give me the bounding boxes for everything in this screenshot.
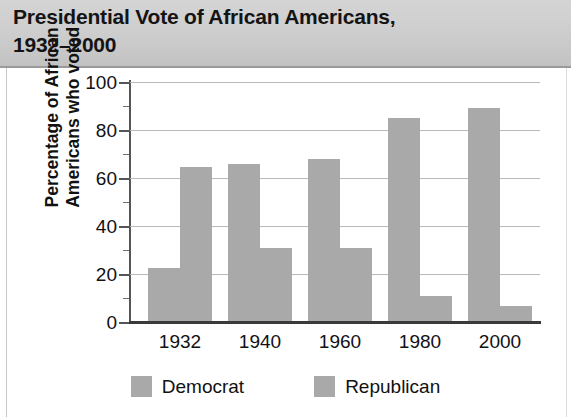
bar-democrat-2000 bbox=[468, 108, 500, 322]
chart-figure: Presidential Vote of African Americans, … bbox=[0, 0, 571, 417]
bar-republican-2000 bbox=[500, 306, 532, 322]
y-axis-tick-label: 100 bbox=[69, 73, 117, 92]
x-axis-tick-label-1940: 1940 bbox=[215, 332, 305, 351]
y-axis-tick-label: 40 bbox=[69, 217, 117, 236]
y-axis-tick-label: 0 bbox=[69, 313, 117, 332]
plot-area bbox=[130, 82, 540, 322]
legend-item-republican: Republican bbox=[314, 376, 440, 397]
bar-democrat-1932 bbox=[148, 268, 180, 322]
legend-swatch-republican bbox=[314, 376, 335, 397]
bar-democrat-1980 bbox=[388, 118, 420, 322]
x-axis-tick-label-2000: 2000 bbox=[455, 332, 545, 351]
bar-republican-1980 bbox=[420, 296, 452, 322]
bar-republican-1932 bbox=[180, 167, 212, 322]
frame-left-border bbox=[6, 68, 7, 417]
y-axis-tick-label: 20 bbox=[69, 265, 117, 284]
y-axis-tick-labels: 020406080100 bbox=[62, 0, 117, 417]
bar-republican-1960 bbox=[340, 248, 372, 322]
legend-swatch-democrat bbox=[131, 376, 152, 397]
x-axis-tick-label-1960: 1960 bbox=[295, 332, 385, 351]
x-axis-line bbox=[129, 321, 541, 324]
chart-legend: DemocratRepublican bbox=[0, 376, 571, 397]
bar-democrat-1940 bbox=[228, 164, 260, 322]
x-axis-tick-label-1932: 1932 bbox=[135, 332, 225, 351]
legend-label-republican: Republican bbox=[345, 377, 440, 396]
legend-label-democrat: Democrat bbox=[162, 377, 244, 396]
x-axis-tick-label-1980: 1980 bbox=[375, 332, 465, 351]
bar-democrat-1960 bbox=[308, 159, 340, 322]
y-axis-tick-label: 60 bbox=[69, 169, 117, 188]
frame-right-border bbox=[566, 68, 567, 417]
y-axis-tick-label: 80 bbox=[69, 121, 117, 140]
bar-republican-1940 bbox=[260, 248, 292, 322]
legend-item-democrat: Democrat bbox=[131, 376, 244, 397]
gridline bbox=[130, 82, 540, 83]
